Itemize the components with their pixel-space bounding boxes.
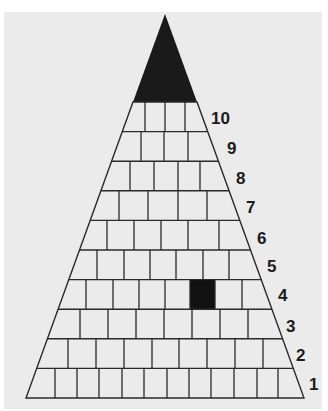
level-label-10: 10 xyxy=(211,109,230,128)
level-label-7: 7 xyxy=(246,198,255,217)
level-label-5: 5 xyxy=(267,257,276,276)
level-label-6: 6 xyxy=(257,229,266,248)
pyramid-diagram: 10 9 8 7 6 5 4 3 2 1 xyxy=(0,0,328,411)
level-label-1: 1 xyxy=(309,375,318,394)
level-label-4: 4 xyxy=(278,286,288,305)
level-label-8: 8 xyxy=(236,169,245,188)
pyramid-apex xyxy=(133,14,197,102)
level-label-9: 9 xyxy=(227,139,236,158)
highlighted-brick xyxy=(190,280,215,310)
level-label-3: 3 xyxy=(286,317,295,336)
level-label-2: 2 xyxy=(296,346,305,365)
